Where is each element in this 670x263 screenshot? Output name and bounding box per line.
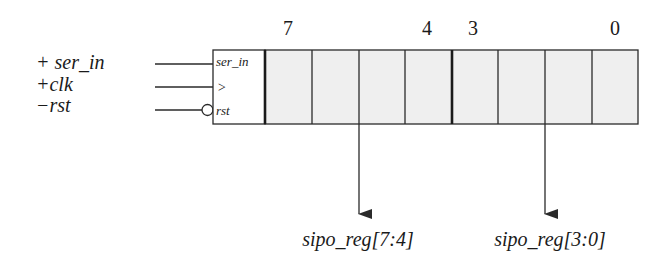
signal-label-ser-in: + ser_in <box>36 51 105 73</box>
bit-label-0: 0 <box>610 17 620 39</box>
pin-label-clk: > <box>217 80 226 95</box>
pin-label-rst: rst <box>216 103 230 118</box>
inversion-bubble-icon <box>202 105 213 116</box>
output-label-lower-nibble: sipo_reg[3:0] <box>494 228 605 251</box>
pin-label-ser-in: ser_in <box>216 54 249 69</box>
signal-label-clk: +clk <box>36 73 74 95</box>
signal-label-rst: −rst <box>36 94 71 116</box>
sipo-register-diagram: + ser_in +clk −rst ser_in > rst 7 4 3 0 … <box>0 0 670 263</box>
bit-label-4: 4 <box>422 17 432 39</box>
output-label-upper-nibble: sipo_reg[7:4] <box>302 228 413 251</box>
bit-label-3: 3 <box>468 17 478 39</box>
register-cells <box>265 50 638 124</box>
bit-label-7: 7 <box>283 17 293 39</box>
